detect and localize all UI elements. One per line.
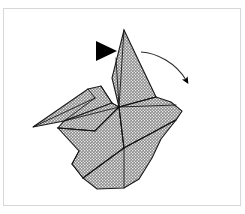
curved-fold-arrow (141, 52, 186, 80)
origami-diagram (0, 0, 245, 214)
solid-triangle-pointer (96, 41, 117, 61)
origami-figure-container: Paper crane form with fold direction arr… (0, 0, 245, 214)
